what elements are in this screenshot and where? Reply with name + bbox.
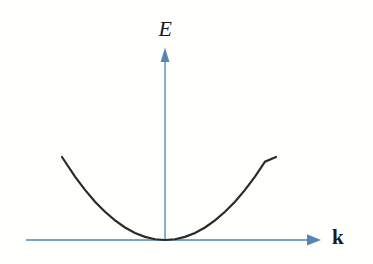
dispersion-curve xyxy=(62,157,276,240)
arrow-right-icon xyxy=(307,234,321,245)
dispersion-figure: E k xyxy=(0,0,373,264)
y-axis-label: E xyxy=(0,18,331,40)
x-axis-label: k xyxy=(332,227,344,248)
arrow-up-icon xyxy=(161,48,170,63)
